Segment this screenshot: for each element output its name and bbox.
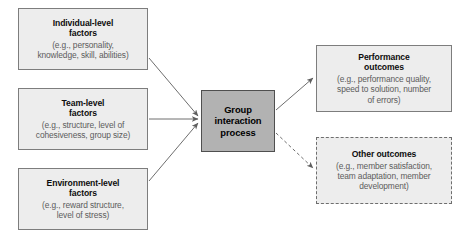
node-detail-line3: of errors) xyxy=(368,95,401,105)
node-performance-outcomes: Performance outcomes (e.g., performance … xyxy=(316,45,452,112)
node-detail: (e.g., performance quality, speed to sol… xyxy=(337,74,431,105)
node-title-line1: Environment-level xyxy=(47,178,120,188)
node-detail-line2: knowledge, skill, abilities) xyxy=(37,50,128,60)
node-team-level-factors: Team-level factors (e.g., structure, lev… xyxy=(18,88,148,150)
edge-individual-to-process xyxy=(149,58,198,116)
edge-process-to-other xyxy=(276,133,313,168)
node-detail-line1: (e.g., reward structure, xyxy=(42,200,124,210)
node-title-line1: Individual-level xyxy=(53,18,113,28)
node-individual-level-factors: Individual-level factors (e.g., personal… xyxy=(18,8,148,70)
node-title: Group interaction process xyxy=(215,104,262,139)
node-detail-line2: team adaptation, member xyxy=(337,171,430,181)
node-title-line2: factors xyxy=(69,108,97,118)
node-title-line1: Other outcomes xyxy=(352,149,417,159)
node-title-line2: factors xyxy=(69,188,97,198)
node-detail-line1: (e.g., structure, level of xyxy=(42,120,125,130)
node-title: Individual-level factors xyxy=(53,18,113,39)
node-title-line1: Group xyxy=(224,104,252,115)
node-title-line2: outcomes xyxy=(364,62,404,72)
node-title: Performance outcomes xyxy=(358,52,409,73)
node-title-line1: Team-level xyxy=(62,98,105,108)
node-title-line1: Performance xyxy=(358,52,409,62)
node-detail: (e.g., member satisfaction, team adaptat… xyxy=(336,161,432,192)
node-title: Team-level factors xyxy=(62,98,105,119)
node-title-line2: interaction xyxy=(215,115,262,126)
node-title: Environment-level factors xyxy=(47,178,120,199)
node-detail-line2: speed to solution, number xyxy=(337,84,431,94)
node-detail-line2: cohesiveness, group size) xyxy=(36,130,130,140)
node-title: Other outcomes xyxy=(352,149,417,159)
node-detail-line2: level of stress) xyxy=(57,210,109,220)
node-other-outcomes: Other outcomes (e.g., member satisfactio… xyxy=(316,137,452,204)
node-group-interaction-process: Group interaction process xyxy=(201,90,275,152)
node-detail: (e.g., personality, knowledge, skill, ab… xyxy=(37,40,128,61)
node-title-line3: process xyxy=(220,127,255,138)
edge-process-to-performance xyxy=(276,78,313,110)
node-detail-line3: development) xyxy=(359,181,409,191)
edge-environment-to-process xyxy=(149,123,198,181)
node-title-line2: factors xyxy=(69,28,97,38)
group-interaction-diagram: Individual-level factors (e.g., personal… xyxy=(0,0,468,239)
node-detail: (e.g., reward structure, level of stress… xyxy=(42,200,124,221)
node-detail-line1: (e.g., personality, xyxy=(52,40,114,50)
node-detail-line1: (e.g., performance quality, xyxy=(337,74,431,84)
node-detail-line1: (e.g., member satisfaction, xyxy=(336,161,432,171)
node-environment-level-factors: Environment-level factors (e.g., reward … xyxy=(18,168,148,230)
node-detail: (e.g., structure, level of cohesiveness,… xyxy=(36,120,130,141)
